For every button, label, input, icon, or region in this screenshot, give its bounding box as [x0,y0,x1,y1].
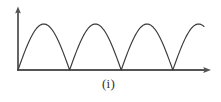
figure-caption: (i) [0,76,221,92]
rectified-sine-figure: (i) [0,0,221,102]
figure-caption-label: (i) [102,76,115,91]
